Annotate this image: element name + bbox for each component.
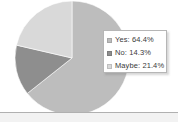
legend-swatch-no [107,51,112,56]
chart-legend: Yes: 64.4% No: 14.3% Maybe: 21.4% [103,30,167,73]
legend-item-maybe[interactable]: Maybe: 21.4% [107,60,166,72]
chart-screenshot: Yes: 64.4% No: 14.3% Maybe: 21.4% [0,0,178,122]
legend-swatch-yes [107,38,112,43]
legend-label-no: No: 14.3% [115,47,151,59]
legend-label-maybe: Maybe: 21.4% [115,60,164,72]
legend-label-yes: Yes: 64.4% [115,34,154,46]
pie-chart-plot-area: Yes: 64.4% No: 14.3% Maybe: 21.4% [0,0,178,113]
legend-item-yes[interactable]: Yes: 64.4% [107,34,166,46]
footer-strip [0,113,178,122]
legend-swatch-maybe [107,64,112,69]
legend-item-no[interactable]: No: 14.3% [107,47,166,59]
